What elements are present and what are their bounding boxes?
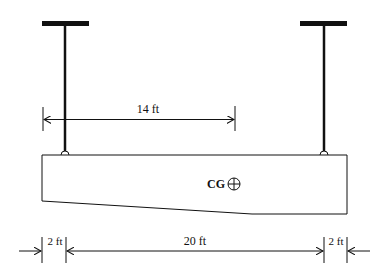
dim-top-label: 14 ft — [137, 102, 160, 116]
cg-label: CG — [207, 177, 225, 191]
right-pivot-icon — [320, 151, 328, 155]
dim-left-label: 2 ft — [48, 235, 63, 247]
left-hanger — [42, 21, 89, 155]
beam-diagram: 14 ft CG 2 ft 20 ft 2 ft — [0, 0, 383, 278]
dim-mid-label: 20 ft — [184, 234, 207, 248]
left-pivot-icon — [61, 151, 69, 155]
beam — [42, 155, 347, 214]
circle-plus-icon — [228, 178, 240, 190]
right-hanger — [300, 21, 347, 155]
dim-right-label: 2 ft — [329, 235, 344, 247]
